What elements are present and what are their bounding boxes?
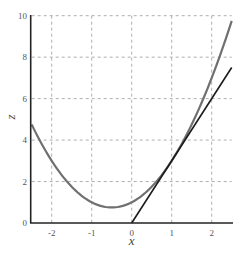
grid-lines <box>32 16 232 223</box>
y-tick-label: 10 <box>18 11 28 21</box>
chart: -2-1012 0246810 x z <box>0 0 247 254</box>
y-tick-label: 0 <box>23 218 28 228</box>
tangent-line <box>132 68 232 223</box>
y-axis-label: z <box>3 114 18 120</box>
x-axis-label: x <box>128 233 135 248</box>
x-tick-label: -2 <box>48 228 56 238</box>
x-tick-label: 1 <box>169 228 174 238</box>
y-tick-labels: 0246810 <box>18 11 28 228</box>
y-tick-label: 6 <box>23 94 28 104</box>
x-tick-label: 2 <box>209 228 214 238</box>
y-tick-label: 2 <box>23 177 28 187</box>
y-tick-label: 4 <box>23 135 28 145</box>
y-tick-label: 8 <box>23 52 28 62</box>
x-tick-label: -1 <box>88 228 96 238</box>
